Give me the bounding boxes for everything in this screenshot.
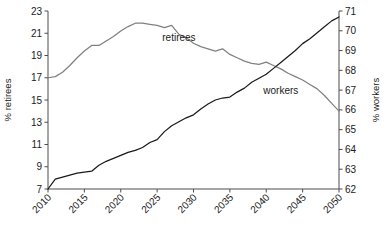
y-axis-right-tick-label: 68 bbox=[345, 65, 357, 76]
y-axis-left-tick-label: 23 bbox=[31, 6, 43, 17]
y-axis-right-tick-label: 70 bbox=[345, 25, 357, 36]
y-axis-right-title: % workers bbox=[370, 78, 381, 123]
x-axis-tick-label: 2025 bbox=[139, 191, 163, 215]
y-axis-right-tick-label: 64 bbox=[345, 144, 357, 155]
line-chart: 7911131517192123626364656667686970712010… bbox=[0, 0, 388, 229]
y-axis-left-tick-label: 7 bbox=[36, 184, 42, 195]
y-axis-left-title: % retirees bbox=[2, 78, 13, 121]
x-axis-tick-label: 2020 bbox=[103, 191, 127, 215]
y-axis-right-tick-label: 71 bbox=[345, 6, 357, 17]
y-axis-left-tick-label: 17 bbox=[31, 72, 43, 83]
y-axis-right-tick-label: 66 bbox=[345, 104, 357, 115]
y-axis-left-tick-label: 11 bbox=[32, 139, 43, 150]
y-axis-left-tick-label: 13 bbox=[31, 117, 43, 128]
y-axis-left-tick-label: 21 bbox=[31, 28, 43, 39]
x-axis-tick-label: 2010 bbox=[30, 191, 54, 215]
y-axis-right-tick-label: 65 bbox=[345, 124, 357, 135]
y-axis-right-tick-label: 63 bbox=[345, 164, 357, 175]
series-label-workers: workers bbox=[262, 85, 298, 96]
x-axis-tick-label: 2045 bbox=[285, 191, 309, 215]
y-axis-left-tick-label: 9 bbox=[36, 161, 42, 172]
y-axis-right-tick-label: 69 bbox=[345, 45, 357, 56]
y-axis-right-tick-label: 62 bbox=[345, 184, 357, 195]
x-axis-tick-label: 2040 bbox=[248, 191, 272, 215]
y-axis-left-tick-label: 15 bbox=[31, 95, 43, 106]
series-label-retirees: retirees bbox=[162, 32, 195, 43]
x-axis-tick-label: 2035 bbox=[212, 191, 236, 215]
labels-group: % retirees% workersretireesworkers bbox=[2, 32, 381, 122]
x-axis-tick-label: 2030 bbox=[175, 191, 199, 215]
chart-container: 7911131517192123626364656667686970712010… bbox=[0, 0, 388, 229]
y-axis-right-tick-label: 67 bbox=[345, 85, 357, 96]
x-axis-tick-label: 2015 bbox=[66, 191, 90, 215]
x-axis-tick-label: 2050 bbox=[321, 191, 345, 215]
y-axis-left-tick-label: 19 bbox=[31, 50, 43, 61]
